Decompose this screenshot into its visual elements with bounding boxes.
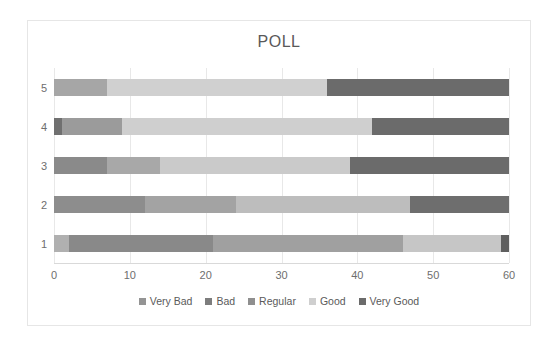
legend-label: Bad [216,295,235,307]
chart-legend: Very BadBadRegularGoodVery Good [28,295,530,307]
bar-segment[interactable] [145,196,236,213]
legend-item[interactable]: Very Bad [139,295,193,307]
gridline [509,68,510,263]
chart-container: POLL 54321 0102030405060 Very BadBadRegu… [27,20,531,326]
y-tick-label: 1 [41,238,47,250]
bar-segment[interactable] [160,157,350,174]
legend-item[interactable]: Regular [248,295,296,307]
legend-swatch-icon [205,298,212,305]
x-tick-label: 30 [275,269,287,281]
x-tick-label: 50 [427,269,439,281]
bar-row[interactable]: 4 [54,118,509,135]
bar-segment[interactable] [327,79,509,96]
bar-segment[interactable] [410,196,509,213]
bar-segment[interactable] [107,79,327,96]
bar-row[interactable]: 1 [54,235,509,252]
bar-segment[interactable] [62,118,123,135]
legend-swatch-icon [359,298,366,305]
bar-segment[interactable] [236,196,410,213]
legend-item[interactable]: Good [309,295,346,307]
legend-item[interactable]: Bad [205,295,235,307]
legend-label: Very Bad [150,295,193,307]
bar-segment[interactable] [54,196,145,213]
bar-segment[interactable] [213,235,403,252]
x-axis-line [54,263,509,264]
bar-segment[interactable] [69,235,213,252]
x-tick-label: 40 [351,269,363,281]
y-tick-label: 3 [41,160,47,172]
bar-segment[interactable] [54,235,69,252]
x-tick-label: 10 [124,269,136,281]
legend-label: Very Good [370,295,420,307]
x-tick-label: 20 [200,269,212,281]
bar-segment[interactable] [403,235,502,252]
y-tick-label: 5 [41,82,47,94]
bar-segment[interactable] [54,118,62,135]
y-tick-label: 4 [41,121,47,133]
bar-segment[interactable] [350,157,509,174]
y-tick-label: 2 [41,199,47,211]
chart-title: POLL [28,33,530,51]
bar-row[interactable]: 2 [54,196,509,213]
bar-segment[interactable] [372,118,509,135]
bar-segment[interactable] [54,157,107,174]
legend-label: Good [320,295,346,307]
bar-segment[interactable] [501,235,509,252]
bar-row[interactable]: 3 [54,157,509,174]
legend-swatch-icon [248,298,255,305]
legend-swatch-icon [309,298,316,305]
bar-segment[interactable] [54,79,107,96]
plot-area: 54321 [54,68,509,263]
legend-swatch-icon [139,298,146,305]
bar-row[interactable]: 5 [54,79,509,96]
bar-segment[interactable] [107,157,160,174]
legend-label: Regular [259,295,296,307]
x-tick-label: 60 [503,269,515,281]
bar-segment[interactable] [122,118,372,135]
x-tick-label: 0 [51,269,57,281]
legend-item[interactable]: Very Good [359,295,420,307]
